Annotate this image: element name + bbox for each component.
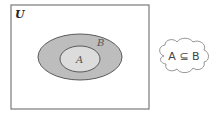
subset-relation-text: A ⊆ B — [168, 50, 199, 63]
set-a-label: A — [75, 54, 83, 65]
universe-label: U — [15, 8, 26, 21]
venn-diagram: U B A A ⊆ B — [0, 0, 217, 114]
set-b-label: B — [96, 37, 104, 48]
